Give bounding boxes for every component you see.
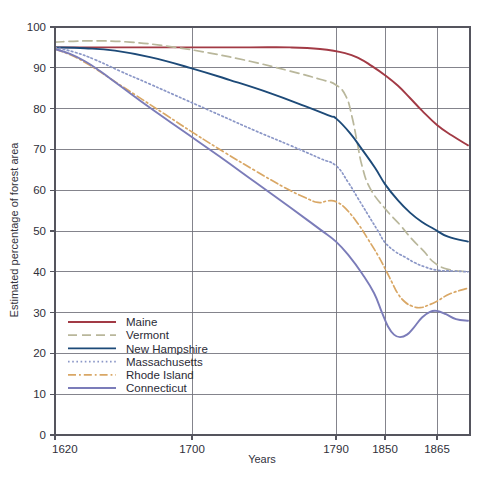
y-tick-label: 50 xyxy=(33,225,46,237)
series-line-new-hampshire xyxy=(55,47,468,241)
legend-label-maine: Maine xyxy=(126,316,157,328)
y-tick-label: 60 xyxy=(33,184,46,196)
y-tick-label: 90 xyxy=(33,62,46,74)
y-tick-label: 30 xyxy=(33,307,46,319)
series-line-connecticut xyxy=(55,49,468,337)
series-line-massachusetts xyxy=(55,47,468,271)
y-tick-label: 70 xyxy=(33,143,46,155)
y-tick-label: 80 xyxy=(33,103,46,115)
legend-label-connecticut: Connecticut xyxy=(126,382,188,394)
x-tick-label: 1850 xyxy=(372,443,398,455)
legend-label-vermont: Vermont xyxy=(126,329,170,341)
forest-area-line-chart: 0102030405060708090100 16201700179018501… xyxy=(0,0,489,487)
series-lines xyxy=(55,41,468,337)
y-tick-label: 20 xyxy=(33,347,46,359)
y-axis-title: Estimated percentage of forest area xyxy=(8,142,20,318)
y-tick-label: 10 xyxy=(33,388,46,400)
y-tick-label: 40 xyxy=(33,266,46,278)
y-tick-label: 100 xyxy=(27,21,46,33)
legend-label-new-hampshire: New Hampshire xyxy=(126,343,208,355)
chart-legend: MaineVermontNew HampshireMassachusettsRh… xyxy=(68,316,208,394)
grid-lines xyxy=(55,27,470,435)
x-axis-title: Years xyxy=(248,453,276,465)
legend-label-massachusetts: Massachusetts xyxy=(126,356,203,368)
series-line-maine xyxy=(55,47,468,145)
x-tick-label: 1790 xyxy=(323,443,349,455)
series-line-vermont xyxy=(55,41,468,272)
y-tick-label: 0 xyxy=(40,429,46,441)
x-tick-label: 1700 xyxy=(179,443,205,455)
legend-label-rhode-island: Rhode Island xyxy=(126,369,194,381)
y-axis-tick-labels: 0102030405060708090100 xyxy=(27,21,46,441)
chart-canvas: 0102030405060708090100 16201700179018501… xyxy=(0,0,489,487)
series-line-rhode-island xyxy=(55,49,468,308)
x-tick-label: 1620 xyxy=(52,443,78,455)
x-tick-label: 1865 xyxy=(424,443,450,455)
